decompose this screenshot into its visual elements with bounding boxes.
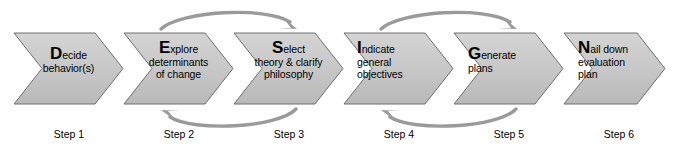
diagram-canvas: Decide behavior(s) Explore determinants … [0, 0, 676, 150]
chevron-step-5[interactable] [454, 33, 563, 104]
chevron-step-6[interactable] [564, 33, 665, 104]
step-label-1: Step 1 [28, 128, 110, 141]
step-label-3: Step 3 [248, 128, 330, 141]
step-label-4: Step 4 [358, 128, 440, 141]
chevron-step-2[interactable] [124, 33, 233, 104]
chevron-step-3[interactable] [234, 33, 343, 104]
arrow-top-step4-to-step5 [381, 12, 517, 29]
arrow-bottom-step3-to-step2 [161, 109, 296, 126]
step-label-2: Step 2 [138, 128, 220, 141]
chevron-step-1[interactable] [14, 33, 123, 104]
step-label-5: Step 5 [468, 128, 550, 141]
step-label-6: Step 6 [578, 128, 660, 141]
arrow-top-step2-to-step3 [161, 12, 297, 29]
arrow-bottom-step5-to-step4 [381, 109, 516, 126]
chevron-step-4[interactable] [344, 33, 453, 104]
